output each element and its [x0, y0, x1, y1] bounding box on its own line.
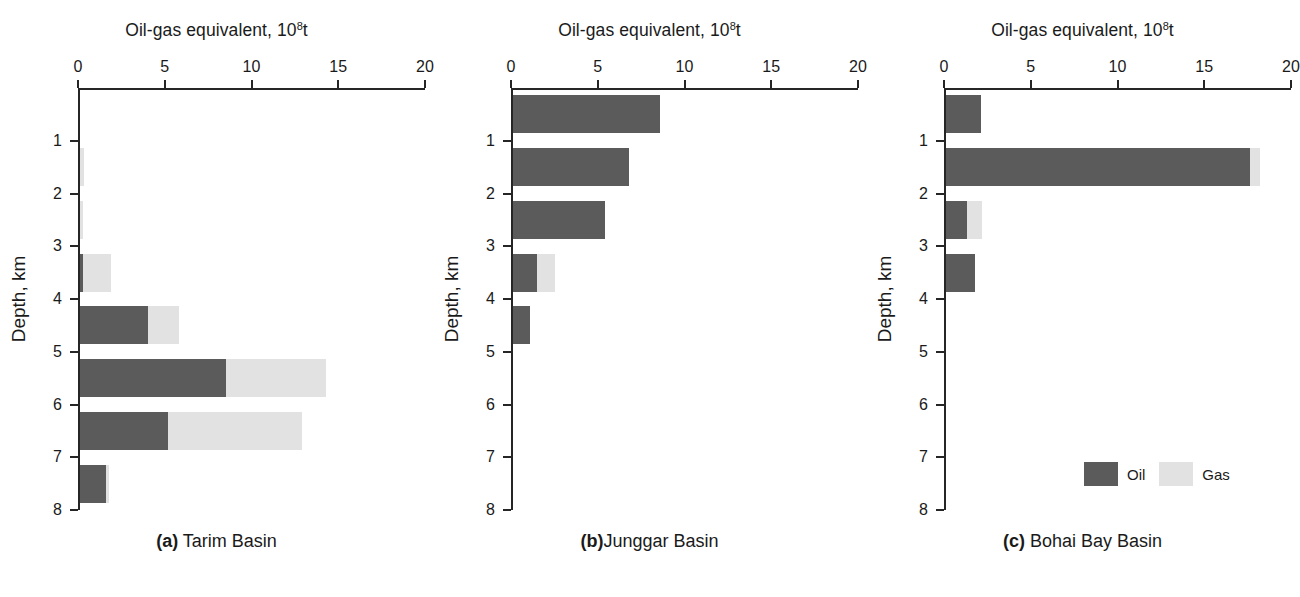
- x-tick-a-15: [337, 80, 339, 88]
- x-tick-label-c-0: 0: [940, 58, 949, 76]
- y-tick-a-3: [70, 245, 78, 247]
- x-tick-label-c-5: 5: [1026, 58, 1035, 76]
- bar-row-c-depth-3-4km: [946, 254, 975, 292]
- y-tick-a-2: [70, 193, 78, 195]
- bar-row-a-depth-2-3km: [80, 201, 83, 239]
- y-tick-label-a-6: 6: [53, 396, 62, 414]
- bar-row-b-depth-0-1km: [513, 95, 660, 133]
- bar-row-c-depth-1-2km: [946, 148, 1260, 186]
- x-tick-label-c-10: 10: [1109, 58, 1127, 76]
- y-tick-label-c-5: 5: [919, 343, 928, 361]
- x-tick-c-20: [1290, 80, 1292, 88]
- bar-segment-oil-b-2-3: [513, 201, 605, 239]
- y-tick-label-a-8: 8: [53, 501, 62, 519]
- legend-item-oil: Oil: [1084, 462, 1145, 486]
- bar-row-b-depth-2-3km: [513, 201, 605, 239]
- bar-row-b-depth-4-5km: [513, 306, 530, 344]
- y-tick-c-8: [936, 509, 944, 511]
- bar-segment-gas-a-4-5: [148, 306, 179, 344]
- y-axis-caption-label-c: Depth, km: [874, 256, 896, 343]
- x-tick-c-15: [1203, 80, 1205, 88]
- y-tick-label-a-7: 7: [53, 448, 62, 466]
- panel-a-tarim-basin: Oil-gas equivalent, 108t Depth, km 05101…: [0, 0, 433, 597]
- y-tick-label-a-2: 2: [53, 185, 62, 203]
- y-tick-c-5: [936, 351, 944, 353]
- bar-segment-oil-b-4-5: [513, 306, 530, 344]
- y-tick-c-6: [936, 404, 944, 406]
- y-tick-label-c-6: 6: [919, 396, 928, 414]
- y-axis-caption-a: Depth, km: [6, 88, 32, 510]
- x-tick-label-b-5: 5: [593, 58, 602, 76]
- panel-name-b: Junggar Basin: [603, 531, 718, 551]
- y-tick-label-b-7: 7: [486, 448, 495, 466]
- bar-segment-oil-c-3-4: [946, 254, 975, 292]
- y-tick-label-c-2: 2: [919, 185, 928, 203]
- y-tick-a-7: [70, 456, 78, 458]
- bar-row-a-depth-6-7km: [80, 412, 302, 450]
- panel-tag-c: (c): [1003, 531, 1025, 551]
- x-axis-line-c: [944, 88, 1291, 90]
- legend-item-gas: Gas: [1159, 462, 1230, 486]
- y-tick-label-c-4: 4: [919, 290, 928, 308]
- x-tick-b-0: [510, 80, 512, 88]
- bar-segment-gas-a-7-8: [106, 465, 109, 503]
- y-tick-label-c-3: 3: [919, 237, 928, 255]
- axis-title-suffix-a: t: [303, 20, 308, 40]
- y-axis-caption-c: Depth, km: [872, 88, 898, 510]
- legend-swatch-oil-icon: [1084, 462, 1118, 486]
- y-tick-a-4: [70, 298, 78, 300]
- bar-segment-gas-c-2-3: [967, 201, 983, 239]
- bar-segment-oil-a-4-5: [80, 306, 148, 344]
- bar-row-b-depth-1-2km: [513, 148, 629, 186]
- bar-segment-oil-b-3-4: [513, 254, 537, 292]
- x-tick-a-10: [251, 80, 253, 88]
- panel-b-junggar-basin: Oil-gas equivalent, 108t Depth, km 05101…: [433, 0, 866, 597]
- legend-swatch-gas-icon: [1159, 462, 1193, 486]
- axis-title-text-b: Oil-gas equivalent, 10: [558, 20, 729, 40]
- bar-segment-gas-b-3-4: [537, 254, 554, 292]
- y-tick-label-c-7: 7: [919, 448, 928, 466]
- bar-row-a-depth-1-2km: [80, 148, 84, 186]
- y-tick-label-a-3: 3: [53, 237, 62, 255]
- y-tick-c-1: [936, 140, 944, 142]
- y-tick-b-1: [503, 140, 511, 142]
- y-tick-a-1: [70, 140, 78, 142]
- bar-segment-oil-a-7-8: [80, 465, 106, 503]
- bar-row-c-depth-0-1km: [946, 95, 981, 133]
- y-tick-label-b-5: 5: [486, 343, 495, 361]
- axis-title-suffix-b: t: [736, 20, 741, 40]
- y-tick-b-3: [503, 245, 511, 247]
- y-tick-label-a-4: 4: [53, 290, 62, 308]
- bar-segment-gas-a-5-6: [226, 359, 327, 397]
- x-tick-label-a-20: 20: [416, 58, 434, 76]
- bar-segment-oil-c-1-2: [946, 148, 1250, 186]
- x-tick-b-5: [597, 80, 599, 88]
- legend-label-oil: Oil: [1127, 466, 1145, 483]
- y-tick-a-5: [70, 351, 78, 353]
- axis-title-c: Oil-gas equivalent, 108t: [866, 20, 1299, 41]
- x-tick-label-a-0: 0: [74, 58, 83, 76]
- bar-segment-gas-a-1-2: [80, 148, 84, 186]
- x-tick-label-c-15: 15: [1195, 58, 1213, 76]
- x-tick-label-b-0: 0: [507, 58, 516, 76]
- y-tick-b-7: [503, 456, 511, 458]
- legend: Oil Gas: [1084, 462, 1230, 486]
- y-tick-label-a-5: 5: [53, 343, 62, 361]
- y-tick-a-6: [70, 404, 78, 406]
- panel-tag-a: (a): [156, 531, 178, 551]
- bar-segment-oil-b-1-2: [513, 148, 629, 186]
- bar-row-b-depth-3-4km: [513, 254, 555, 292]
- y-tick-c-4: [936, 298, 944, 300]
- y-tick-label-b-3: 3: [486, 237, 495, 255]
- y-tick-label-b-2: 2: [486, 185, 495, 203]
- panel-tag-b: (b): [580, 531, 603, 551]
- x-axis-line-a: [78, 88, 425, 90]
- y-tick-b-2: [503, 193, 511, 195]
- y-tick-b-6: [503, 404, 511, 406]
- x-tick-c-5: [1030, 80, 1032, 88]
- y-axis-caption-label-b: Depth, km: [441, 256, 463, 343]
- y-tick-label-b-8: 8: [486, 501, 495, 519]
- y-tick-label-b-1: 1: [486, 132, 495, 150]
- axis-title-text-c: Oil-gas equivalent, 10: [991, 20, 1162, 40]
